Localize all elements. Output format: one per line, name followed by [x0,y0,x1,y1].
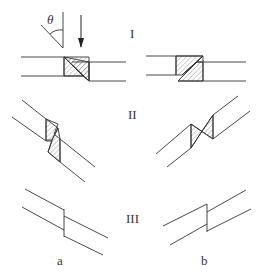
theta-label: θ [47,12,54,27]
column-label-b: b [201,253,208,268]
fault-diagram: θ I II III [0,0,262,278]
angle-indicator: θ [41,12,63,48]
row-label-I: I [130,26,134,41]
row-III-a [22,189,108,255]
row-I-a [21,57,126,81]
column-label-a: a [57,253,63,268]
row-I-b [146,56,246,81]
row-label-II: II [128,107,137,122]
row-label-III: III [126,211,139,226]
row-II-b [156,96,250,167]
down-arrow-icon [78,15,84,48]
row-III-b [163,190,251,245]
row-II-a [12,100,95,182]
